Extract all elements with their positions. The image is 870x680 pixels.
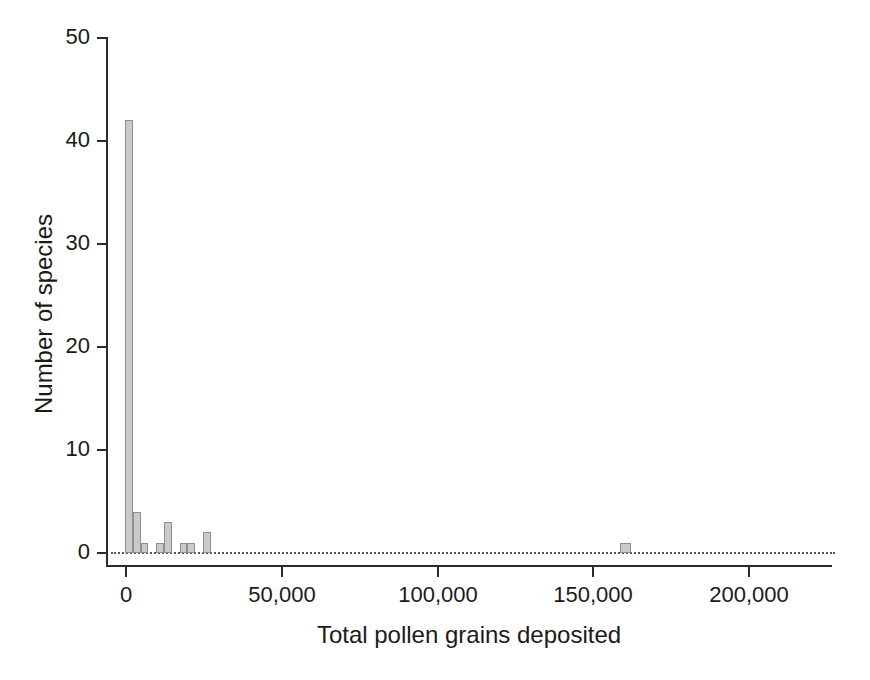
histogram-bar — [125, 120, 133, 553]
histogram-bar — [156, 543, 164, 553]
histogram-bar — [180, 543, 188, 553]
histogram-bar — [164, 522, 172, 553]
x-tick-mark-100000 — [437, 567, 439, 577]
x-axis-line — [106, 565, 832, 567]
x-tick-label-200000: 200,000 — [709, 583, 789, 607]
x-tick-label-150000: 150,000 — [553, 583, 633, 607]
histogram-bar — [620, 543, 631, 553]
x-tick-label-50000: 50,000 — [248, 583, 315, 607]
histogram-figure: 50 40 30 20 10 0 Number of species 0 50,… — [0, 0, 870, 680]
zero-baseline — [111, 552, 835, 554]
x-tick-mark-50000 — [281, 567, 283, 577]
x-axis-title: Total pollen grains deposited — [106, 622, 832, 648]
x-tick-mark-200000 — [748, 567, 750, 577]
x-tick-mark-0 — [125, 567, 127, 577]
plot-area — [0, 0, 870, 680]
histogram-bar — [187, 543, 195, 553]
x-tick-mark-150000 — [592, 567, 594, 577]
histogram-bar — [141, 543, 149, 553]
x-tick-label-0: 0 — [120, 583, 132, 607]
histogram-bar — [203, 532, 211, 553]
x-tick-label-100000: 100,000 — [398, 583, 478, 607]
histogram-bar — [133, 512, 141, 553]
